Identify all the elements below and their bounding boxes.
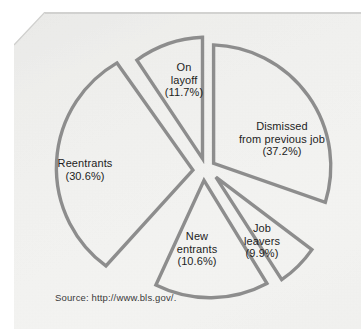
slice-label-line1: Dismissed — [228, 120, 336, 133]
slice-label-line1: Reentrants — [39, 157, 131, 170]
slice-label-line1: Job — [229, 222, 295, 235]
slice-label-job-leavers: Job leavers (9.9%) — [229, 222, 295, 260]
slice-label-line1: On — [150, 61, 218, 74]
slice-value: (30.6%) — [39, 170, 131, 183]
figure-container: Dismissed from previous job (37.2%) Job … — [0, 0, 361, 329]
slice-label-line2: from previous job — [228, 133, 336, 146]
slice-label-line2: layoff — [150, 74, 218, 87]
slice-label-dismissed-from-previous-job: Dismissed from previous job (37.2%) — [228, 120, 336, 158]
slice-label-new-entrants: New entrants (10.6%) — [163, 230, 231, 268]
slice-label-reentrants: Reentrants (30.6%) — [39, 157, 131, 182]
slice-label-line1: New — [163, 230, 231, 243]
slice-label-line2: entrants — [163, 243, 231, 256]
slice-value: (10.6%) — [163, 255, 231, 268]
slice-label-on-layoff: On layoff (11.7%) — [150, 61, 218, 99]
slice-label-line2: leavers — [229, 235, 295, 248]
source-note: Source: http://www.bls.gov/. — [55, 292, 176, 303]
slice-value: (11.7%) — [150, 86, 218, 99]
slice-value: (9.9%) — [229, 247, 295, 260]
slice-value: (37.2%) — [228, 145, 336, 158]
